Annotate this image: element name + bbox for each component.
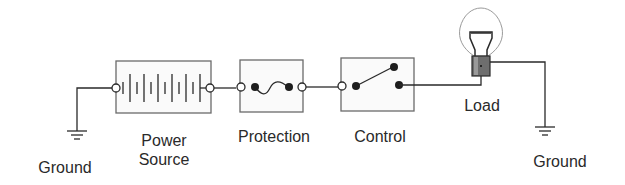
terminal-icon xyxy=(237,83,245,91)
contact-icon xyxy=(352,82,360,90)
ground-right-label: Ground xyxy=(525,152,595,171)
ground-left-label: Ground xyxy=(30,158,100,177)
load-label: Load xyxy=(455,96,509,115)
contact-icon xyxy=(285,83,293,91)
terminal-icon xyxy=(298,83,306,91)
control-label: Control xyxy=(340,127,420,146)
terminal-icon xyxy=(112,84,120,92)
contact-icon xyxy=(251,83,259,91)
power-source-block xyxy=(112,61,214,113)
contact-icon xyxy=(390,63,398,71)
power-source-label: Power Source xyxy=(125,131,203,169)
lightbulb-icon xyxy=(460,8,503,76)
ground-left-symbol xyxy=(67,88,113,139)
terminal-icon xyxy=(206,84,214,92)
terminal-icon xyxy=(338,82,346,90)
protection-label: Protection xyxy=(226,127,322,146)
protection-fuse-block xyxy=(237,60,306,112)
